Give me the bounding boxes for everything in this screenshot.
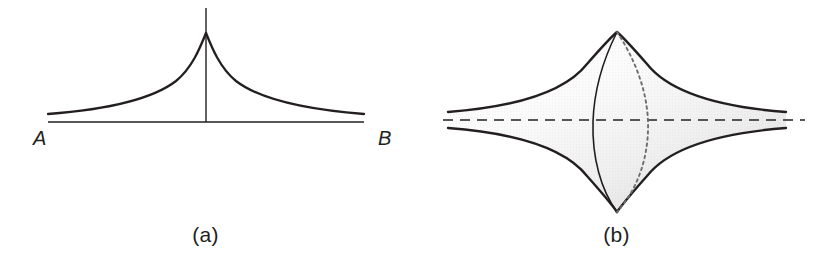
tractrix-curve-right [206, 33, 364, 114]
panel-tractrix: A B (a) [0, 0, 411, 274]
figure-root: A B (a) [0, 0, 822, 274]
panel-pseudosphere: (b) [411, 0, 822, 274]
tractrix-curve-left [48, 33, 206, 114]
panel-caption-a: (a) [0, 224, 411, 245]
panel-caption-b: (b) [411, 224, 822, 245]
pseudosphere-halftone-texture [448, 32, 786, 212]
point-label-b: B [378, 128, 391, 148]
point-label-a: A [33, 128, 46, 148]
